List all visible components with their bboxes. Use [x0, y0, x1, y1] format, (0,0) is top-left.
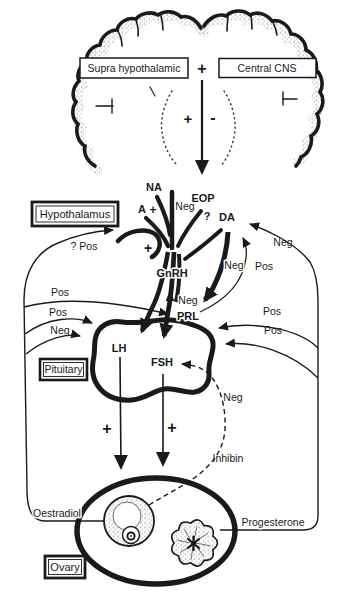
arrow-lh-to-ovary: [120, 357, 121, 467]
label-neg-prl-gnrh: Neg: [178, 294, 197, 306]
sign-plus-intracranial: +: [184, 110, 193, 127]
label-prl: PRL: [177, 310, 199, 322]
label-hypothalamus: Hypothalamus: [40, 208, 111, 220]
hpo-axis-figure: Supra hypothalamic Central CNS + + - NA …: [0, 0, 338, 594]
label-neg-oestradiol-pituitary: Neg: [50, 324, 69, 336]
ovarian-follicle: [104, 496, 154, 546]
label-pos-prl-da: Pos: [255, 260, 273, 272]
hypothalamus-hook: [118, 230, 160, 257]
brain-inner-dotted-structure: [161, 91, 235, 166]
label-inhibin: Inhibin: [213, 452, 244, 464]
label-pituitary: Pituitary: [45, 363, 84, 375]
label-pos-progesterone-2: Pos: [264, 324, 282, 336]
arrow-oestradiol-pituitary-neg: [26, 335, 80, 354]
label-a: A: [138, 203, 146, 215]
label-progesterone: Progesterone: [241, 516, 304, 528]
follicle-antrum: [113, 502, 141, 530]
sign-plus-between-boxes: +: [197, 60, 206, 77]
hpo-axis-diagram: Supra hypothalamic Central CNS + + - NA …: [0, 0, 338, 594]
label-neg-eop: Neg: [175, 200, 194, 212]
sign-minus-intracranial: -: [210, 109, 215, 126]
label-central-cns: Central CNS: [238, 62, 297, 74]
label-pos-oestradiol-prl: Pos: [51, 286, 69, 298]
corpus-luteum: [172, 520, 218, 566]
label-lh: LH: [112, 342, 127, 354]
brain-t-marks: [96, 92, 297, 113]
brain-outline: [73, 11, 323, 171]
label-eop: EOP: [191, 192, 214, 204]
label-neg-progesterone-da: Neg: [273, 236, 292, 248]
label-gnrh: GnRH: [156, 267, 187, 279]
label-fsh: FSH: [151, 356, 173, 368]
label-pos-oestradiol-pituitary: Pos: [49, 306, 67, 318]
arrow-oestradiol-prl-pos: [24, 301, 168, 314]
label-q-pos: ? Pos: [71, 240, 98, 252]
label-da: DA: [219, 211, 235, 223]
label-question-da: ?: [204, 210, 211, 222]
sign-plus-fsh-ovary: +: [167, 419, 176, 436]
follicle-oocyte-nucleus: [130, 535, 132, 537]
label-neg-da-prl: Neg: [224, 259, 243, 271]
label-supra-hypothalamic: Supra hypothalamic: [88, 62, 181, 74]
label-ovary: Ovary: [50, 561, 80, 573]
branch-da: [185, 230, 221, 259]
sign-plus-a: +: [149, 203, 156, 217]
arrow-progesterone-pituitary-pos-2: [226, 344, 318, 378]
label-oestradiol: Oestradiol: [33, 507, 81, 519]
sign-plus-lh-ovary: +: [102, 420, 111, 437]
label-pos-progesterone-1: Pos: [263, 305, 281, 317]
sign-plus-hook: +: [144, 240, 152, 256]
branch-eop: [178, 211, 201, 246]
label-na: NA: [146, 181, 162, 193]
label-neg-inhibin-fsh: Neg: [223, 391, 242, 403]
